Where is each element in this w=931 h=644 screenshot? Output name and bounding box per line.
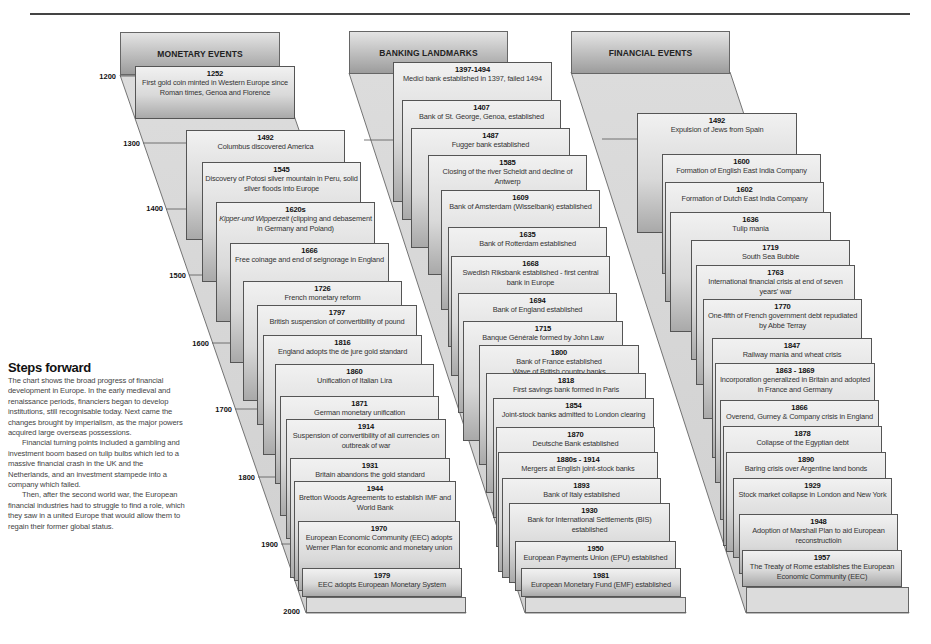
- event-card-monetary: 1979EEC adopts European Monetary System: [302, 568, 462, 597]
- event-year: 1487: [412, 131, 569, 140]
- event-year: 1407: [403, 103, 560, 112]
- event-text: Stock market collapse in London and New …: [734, 490, 891, 499]
- event-year: 1981: [522, 571, 680, 580]
- event-year: 1600: [663, 157, 820, 166]
- event-text: Incorporation generalized in Britain and…: [716, 375, 874, 394]
- event-year: 1818: [487, 376, 645, 385]
- financial-floor: [746, 587, 909, 613]
- event-text: Medici bank established in 1397, failed …: [394, 74, 551, 83]
- event-year: 1770: [704, 302, 861, 311]
- banking-floor: [525, 597, 686, 613]
- event-year: 1880s - 1914: [499, 455, 657, 464]
- event-year: 1726: [244, 284, 401, 293]
- event-text: One-fifth of French government debt repu…: [704, 311, 861, 330]
- event-card-banking: 1981European Monetary Fund (EMF) establi…: [521, 568, 681, 597]
- event-year: 1252: [136, 69, 294, 78]
- event-text: Bank of Rotterdam established: [449, 239, 606, 248]
- event-year: 1609: [442, 193, 599, 202]
- event-year: 1870: [497, 430, 654, 439]
- intro-text-block: Steps forward The chart shows the broad …: [8, 360, 186, 532]
- event-year: 1878: [724, 429, 881, 438]
- event-text: Formation of English East India Company: [663, 166, 820, 175]
- event-year: 1715: [464, 324, 622, 333]
- event-card-financial: 1957The Treaty of Rome establishes the E…: [742, 550, 902, 587]
- tick-1300: 1300: [110, 139, 140, 148]
- event-text: The Treaty of Rome establishes the Europ…: [743, 562, 901, 581]
- tick-1600: 1600: [179, 339, 209, 348]
- event-text: Railway mania and wheat crisis: [713, 350, 871, 359]
- event-year: 1957: [743, 553, 901, 562]
- event-text: EEC adopts European Monetary System: [303, 580, 461, 589]
- event-year: 1635: [449, 230, 606, 239]
- event-text: Deutsche Bank established: [497, 439, 654, 448]
- event-text: Bank of St. George, Genoa, established: [403, 112, 560, 121]
- event-year: 1890: [727, 455, 885, 464]
- event-year: 1914: [287, 422, 445, 431]
- event-text: Suspension of convertibility of all curr…: [287, 431, 445, 450]
- event-text: Bank for International Settlements (BIS)…: [510, 515, 669, 534]
- event-year: 1620s: [217, 205, 374, 214]
- event-text: European Monetary Fund (EMF) established: [522, 580, 680, 589]
- event-card-monetary: 1252First gold coin minted in Western Eu…: [135, 66, 295, 119]
- tick-2000: 2000: [270, 607, 300, 616]
- event-text: First savings bank formed in Paris: [487, 385, 645, 394]
- event-year: 1666: [231, 246, 388, 255]
- event-text: Banque Générale formed by John Law: [464, 333, 622, 342]
- event-text: Expulsion of Jews from Spain: [638, 125, 796, 134]
- event-text: Bank of Amsterdam (Wisselbank) establish…: [442, 202, 599, 211]
- event-year: 1944: [295, 484, 455, 493]
- tick-1800: 1800: [225, 473, 255, 482]
- event-text: German monetary unification: [281, 408, 438, 417]
- event-text: International financial crisis at end of…: [697, 277, 854, 296]
- event-text: Discovery of Potosi silver mountain in P…: [203, 174, 360, 193]
- event-year: 1931: [291, 461, 449, 470]
- italic-term: Kipper-und Wipperzeit: [219, 214, 289, 223]
- event-year: 1929: [734, 481, 891, 490]
- event-year: 1979: [303, 571, 461, 580]
- intro-paragraph-3: Then, after the second world war, the Eu…: [8, 490, 186, 532]
- event-text: Collapse of the Egyptian debt: [724, 438, 881, 447]
- event-text: Tulip mania: [671, 224, 830, 233]
- event-year: 1797: [258, 308, 416, 317]
- event-text: First gold coin minted in Western Europe…: [136, 78, 294, 97]
- event-text: Swedish Riksbank established - first cen…: [452, 268, 609, 287]
- tick-1700: 1700: [202, 405, 232, 414]
- event-text: Bank of France established: [480, 357, 638, 366]
- event-text: Baring crisis over Argentine land bonds: [727, 464, 885, 473]
- event-year: 1847: [713, 341, 871, 350]
- event-year: 1694: [459, 296, 616, 305]
- event-year: 1800: [480, 348, 638, 357]
- tick-1900: 1900: [248, 540, 278, 549]
- event-text: Columbus discovered America: [187, 142, 344, 151]
- event-year: 1893: [503, 481, 660, 490]
- event-year: 1866: [721, 403, 878, 412]
- event-text: Mergers at English joint-stock banks: [499, 464, 657, 473]
- event-year: 1863 - 1869: [716, 366, 874, 375]
- event-year: 1763: [697, 268, 854, 277]
- event-text: Joint-stock banks admitted to London cle…: [494, 410, 653, 419]
- event-year: 1950: [516, 544, 675, 553]
- event-year: 1816: [264, 338, 421, 347]
- event-text: Free coinage and end of seignorage in En…: [231, 255, 388, 264]
- event-year: 1970: [299, 524, 459, 533]
- event-year: 1492: [187, 133, 344, 142]
- event-text: Bretton Woods Agreements to establish IM…: [295, 493, 455, 512]
- event-text: South Sea Bubble: [692, 252, 849, 261]
- event-year: 1397-1494: [394, 65, 551, 74]
- event-year: 1545: [203, 165, 360, 174]
- event-text: French monetary reform: [244, 293, 401, 302]
- event-text: Kipper-und Wipperzeit (clipping and deba…: [217, 214, 374, 233]
- event-text: Closing of the river Scheldt and decline…: [429, 167, 586, 186]
- event-text: Overend, Gurney & Company crisis in Engl…: [721, 412, 878, 421]
- event-text: Bank of England established: [459, 305, 616, 314]
- event-year: 1948: [740, 517, 897, 526]
- event-text: European Economic Community (EEC) adopts…: [299, 533, 459, 552]
- event-text: Formation of Dutch East India Company: [666, 194, 823, 203]
- intro-paragraph-1: The chart shows the broad progress of fi…: [8, 376, 186, 438]
- event-text: England adopts the de jure gold standard: [264, 347, 421, 356]
- intro-paragraph-2: Financial turning points included a gamb…: [8, 438, 186, 490]
- tick-1500: 1500: [156, 271, 186, 280]
- event-year: 1930: [510, 506, 669, 515]
- event-text: British suspension of convertibility of …: [258, 317, 416, 326]
- event-year: 1719: [692, 243, 849, 252]
